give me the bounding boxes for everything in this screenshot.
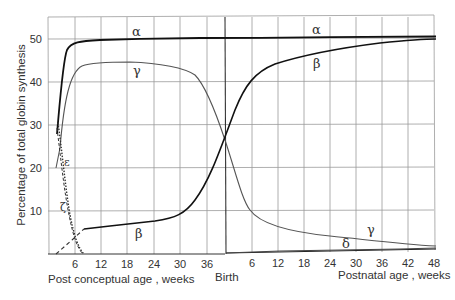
svg-text:24: 24 bbox=[324, 257, 336, 269]
svg-text:10: 10 bbox=[30, 205, 42, 217]
svg-text:20: 20 bbox=[30, 162, 42, 174]
svg-text:30: 30 bbox=[30, 119, 42, 131]
series-alpha bbox=[57, 37, 436, 135]
label-alpha-postnatal: α bbox=[312, 22, 321, 37]
svg-text:36: 36 bbox=[376, 257, 388, 269]
label-beta-postnatal: β bbox=[313, 56, 321, 71]
series-gamma bbox=[56, 62, 436, 246]
x-axis-postnatal bbox=[226, 249, 436, 253]
svg-text:12: 12 bbox=[95, 258, 107, 270]
x-ticks-postnatal: 6 12 18 24 30 36 42 48 bbox=[249, 257, 440, 269]
y-ticks: 10 20 30 40 50 bbox=[30, 33, 42, 217]
svg-text:24: 24 bbox=[148, 258, 160, 270]
svg-text:48: 48 bbox=[428, 257, 440, 269]
svg-text:50: 50 bbox=[30, 33, 42, 45]
globin-chart: α α γ β β γ δ ε ζ 10 20 30 40 50 Percent… bbox=[0, 0, 455, 300]
grid bbox=[48, 15, 435, 254]
label-gamma-prenatal: γ bbox=[133, 63, 141, 78]
x-axis-label-postnatal: Postnatal age , weeks bbox=[338, 269, 451, 281]
label-beta-prenatal: β bbox=[135, 226, 143, 241]
label-gamma-postnatal: γ bbox=[367, 222, 375, 237]
series-delta bbox=[226, 248, 436, 253]
svg-text:18: 18 bbox=[121, 258, 133, 270]
svg-text:12: 12 bbox=[272, 257, 284, 269]
label-delta: δ bbox=[342, 236, 350, 251]
svg-text:30: 30 bbox=[174, 258, 186, 270]
svg-text:36: 36 bbox=[201, 258, 213, 270]
svg-text:30: 30 bbox=[350, 257, 362, 269]
label-epsilon: ε bbox=[64, 156, 70, 169]
y-axis-label: Percentage of total globin synthesis bbox=[15, 44, 27, 226]
svg-text:6: 6 bbox=[249, 257, 255, 269]
svg-text:6: 6 bbox=[72, 258, 78, 270]
svg-text:18: 18 bbox=[298, 257, 310, 269]
x-ticks-prenatal: 6 12 18 24 30 36 bbox=[72, 258, 213, 270]
series-epsilon bbox=[58, 123, 84, 254]
label-zeta: ζ bbox=[60, 201, 66, 214]
svg-text:42: 42 bbox=[402, 257, 414, 269]
x-axis-label-prenatal: Post conceptual age , weeks bbox=[48, 273, 195, 285]
label-alpha-prenatal: α bbox=[132, 24, 141, 39]
birth-label: Birth bbox=[215, 271, 239, 283]
series-beta-early bbox=[56, 229, 84, 254]
svg-text:40: 40 bbox=[30, 76, 42, 88]
